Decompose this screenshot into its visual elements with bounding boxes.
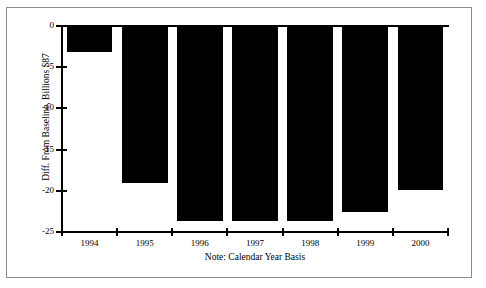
x-tick-mark — [116, 228, 118, 236]
x-tick-label: 1998 — [301, 238, 319, 248]
bar-1994 — [67, 26, 113, 52]
bar-1998 — [287, 26, 333, 221]
plot-area — [62, 26, 448, 232]
x-tick-mark — [61, 228, 63, 236]
bar-1997 — [232, 26, 278, 221]
x-tick-label: 1994 — [81, 238, 99, 248]
x-tick-mark — [392, 228, 394, 236]
bar-1995 — [122, 26, 168, 183]
x-tick-label: 1995 — [136, 238, 154, 248]
x-tick-mark — [171, 228, 173, 236]
y-axis-tick-labels: 0-5-10-15-20-25 — [16, 0, 54, 288]
y-tick-label: -10 — [20, 103, 54, 112]
y-tick-label: -15 — [20, 145, 54, 154]
x-tick-label: 1996 — [191, 238, 209, 248]
x-tick-label: 1999 — [356, 238, 374, 248]
x-tick-label: 1997 — [246, 238, 264, 248]
bar-1999 — [342, 26, 388, 212]
x-tick-mark — [447, 228, 449, 236]
x-tick-mark — [337, 228, 339, 236]
x-tick-label: 2000 — [411, 238, 429, 248]
bar-1996 — [177, 26, 223, 221]
x-tick-mark — [282, 228, 284, 236]
chart-figure: Diff. From Baseline, Billions $87 0-5-10… — [0, 0, 486, 288]
bar-2000 — [398, 26, 444, 190]
chart-note: Note: Calendar Year Basis — [62, 252, 448, 263]
x-tick-mark — [226, 228, 228, 236]
y-tick-label: 0 — [20, 21, 54, 30]
y-tick-label: -25 — [20, 227, 54, 236]
y-tick-label: -20 — [20, 186, 54, 195]
y-tick-label: -5 — [20, 62, 54, 71]
